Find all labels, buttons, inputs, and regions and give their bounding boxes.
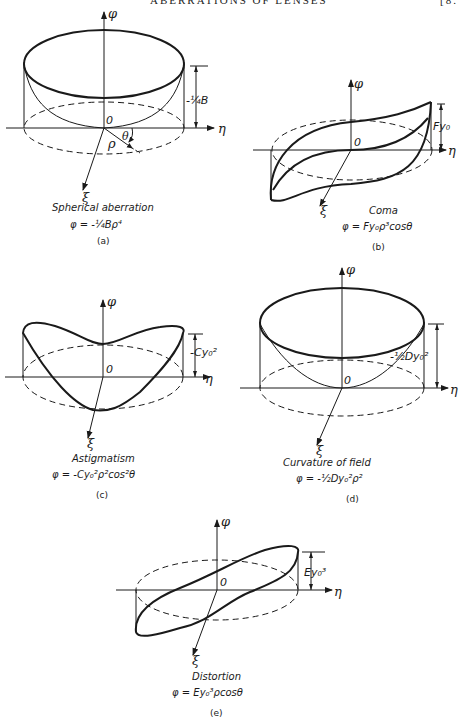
figure-tag: (d) [346, 494, 359, 504]
svg-text:ξ: ξ [192, 653, 200, 668]
svg-text:η: η [334, 584, 342, 599]
svg-text:η: η [448, 143, 456, 158]
aberrations-diagram: φ η ξ 0 ρ θ -¼B Spherical aberration φ =… [0, 0, 462, 721]
figure-formula: φ = Fy₀ρ³cosθ [342, 221, 412, 232]
dimension-label: -Cy₀² [190, 346, 218, 359]
eta-label: η [218, 121, 226, 136]
figure-e-distortion: φ η ξ 0 Ey₀³ Distortion φ = Ey₀³ρcosθ (e… [116, 514, 342, 718]
svg-text:ξ: ξ [87, 436, 95, 451]
svg-text:φ: φ [346, 262, 356, 277]
svg-text:η: η [205, 371, 213, 386]
rho-label: ρ [107, 136, 116, 151]
svg-text:φ: φ [221, 514, 231, 529]
figure-tag: (b) [372, 242, 385, 252]
xi-axis [83, 128, 104, 190]
svg-text:0: 0 [220, 576, 227, 589]
figure-formula: φ = Ey₀³ρcosθ [172, 687, 243, 698]
dimension-label: -¼B [186, 94, 208, 107]
svg-text:0: 0 [344, 374, 351, 387]
phi-label: φ [108, 6, 118, 21]
svg-text:φ: φ [107, 294, 117, 309]
svg-text:0: 0 [354, 136, 361, 149]
svg-text:η: η [450, 382, 458, 397]
figure-title: Curvature of field [283, 457, 371, 468]
svg-text:ξ: ξ [316, 443, 324, 458]
svg-text:φ: φ [354, 76, 364, 91]
dimension-label: -½Dy₀² [390, 350, 429, 363]
figure-title: Astigmatism [71, 453, 135, 464]
figure-b-coma: φ η ξ 0 Fy₀ Coma φ = Fy₀ρ³cosθ (b) [253, 76, 456, 252]
svg-text:0: 0 [106, 363, 113, 376]
figure-title: Spherical aberration [52, 202, 154, 213]
figure-title: Distortion [192, 671, 241, 682]
dimension-label: Fy₀ [433, 120, 451, 133]
figure-tag: (a) [97, 236, 110, 246]
figure-title: Coma [369, 205, 398, 216]
figure-tag: (e) [210, 708, 223, 718]
figure-formula: φ = -½Dy₀²ρ² [296, 473, 363, 484]
svg-text:ξ: ξ [320, 203, 328, 218]
figure-c-astigmatism: φ η ξ 0 -Cy₀² Astigmatism φ = -Cy₀²ρ²cos… [5, 294, 218, 500]
dimension-label: Ey₀³ [304, 566, 327, 579]
figure-d-curvature-of-field: φ η ξ 0 -½Dy₀² Curvature of field φ = -½… [240, 262, 458, 504]
figure-formula: φ = -¼Bρ⁴ [70, 219, 122, 230]
figure-formula: φ = -Cy₀²ρ²cos²θ [52, 469, 135, 480]
figure-a-spherical-aberration: φ η ξ 0 ρ θ -¼B Spherical aberration φ =… [6, 6, 226, 246]
figure-tag: (c) [96, 490, 108, 500]
origin-label: 0 [106, 114, 113, 127]
theta-label: θ [122, 130, 129, 143]
